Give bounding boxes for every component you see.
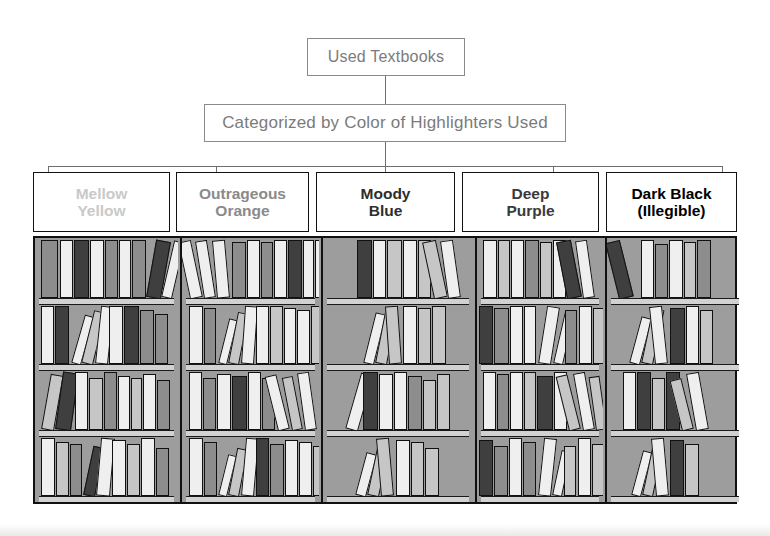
book [119,240,131,298]
book [524,306,536,364]
book [274,240,287,298]
book [261,242,273,298]
category-label-line1: Mellow [76,185,128,202]
book [697,240,711,298]
book [418,308,431,364]
shelf-books [327,238,469,298]
book [423,380,436,430]
book [700,310,713,364]
book [75,372,88,430]
book [670,440,684,496]
connector-subtitle-trunk [385,142,386,167]
shelf-plank [39,496,174,502]
book [497,374,509,430]
book [592,444,603,496]
category-label-line2: Orange [215,202,269,219]
shelf-books [327,436,469,496]
book [155,314,168,364]
shelf-books [481,436,599,496]
book [623,372,636,430]
book [432,306,446,364]
book [565,310,577,364]
category-box-outrageous-orange[interactable]: Outrageous Orange [176,172,309,232]
book [363,372,378,430]
category-label-line1: Dark Black [631,185,711,202]
bookcase-shelf [182,304,319,370]
book [379,374,393,430]
category-label-line2: Yellow [77,202,125,219]
book [311,306,319,364]
shelf-books [327,304,469,364]
book [256,306,269,364]
book [109,306,123,364]
book [70,444,82,496]
book [652,378,665,430]
subtitle-node-label: Categorized by Color of Highlighters Use… [222,113,548,133]
book [684,242,696,298]
book [669,240,683,298]
bookcase-shelf [35,436,178,502]
book [288,240,302,298]
book [74,240,89,298]
book [297,310,310,364]
book [483,240,497,298]
shelf-books [186,238,315,298]
bookcase-shelf [607,370,743,436]
book [593,308,603,364]
shelf-plank [327,496,469,502]
book [510,372,523,430]
book [357,240,372,298]
subtitle-node-categorized-by-color: Categorized by Color of Highlighters Use… [204,104,566,142]
shelf-books [481,304,599,364]
connector-root-to-subtitle [385,76,386,104]
bookcase-column-mellow-yellow [35,238,178,502]
bookcase-column-outrageous-orange [180,238,319,502]
book [203,378,216,430]
book [140,310,154,364]
bookcase-shelf [35,238,178,304]
book [270,444,284,496]
bookcase-shelf [182,436,319,502]
book [303,240,314,298]
shelf-books [481,238,599,298]
bookcase-shelf [607,238,743,304]
category-box-mellow-yellow[interactable]: Mellow Yellow [33,172,170,232]
shelf-books [186,370,315,430]
book [605,240,634,300]
shelf-books [611,370,739,430]
book [403,306,417,364]
book [511,240,524,298]
book [479,306,493,364]
book [403,240,417,298]
bookcase-column-deep-purple [475,238,603,502]
bookcase-shelf [607,304,743,370]
shelf-books [327,370,469,430]
category-box-deep-purple[interactable]: Deep Purple [462,172,599,232]
shelf-books [186,304,315,364]
book [686,306,699,364]
bookcase-column-dark-black [605,238,743,502]
book [105,240,118,298]
book [373,240,386,298]
book [143,374,156,430]
shelf-books [39,304,174,364]
category-label-line2: Blue [369,202,403,219]
book [270,306,283,364]
bookcase-shelf [607,436,743,502]
book [189,372,202,430]
book [204,442,217,496]
bookcase-column-moody-blue [321,238,473,502]
book [104,372,117,430]
bookcase-shelf [323,238,473,304]
book [248,372,261,430]
category-label-line1: Deep [512,185,550,202]
book [641,240,654,298]
book [315,240,319,298]
page-bottom-band [0,524,770,536]
category-label-line1: Outrageous [199,185,286,202]
book [141,438,155,496]
bookcase-shelf [182,238,319,304]
category-box-moody-blue[interactable]: Moody Blue [316,172,455,232]
book [60,240,73,298]
category-box-dark-black[interactable]: Dark Black (Illegible) [606,172,737,232]
